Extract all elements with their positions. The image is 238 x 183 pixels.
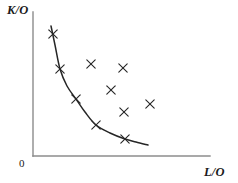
- data-point-marker: [121, 135, 129, 143]
- data-point-marker: [92, 121, 100, 129]
- isoquant-curve: [51, 26, 148, 145]
- data-markers: [49, 30, 154, 143]
- data-point-marker: [119, 64, 127, 72]
- y-axis-label: K/O: [7, 4, 28, 17]
- isoquant-figure: K/O L/O 0: [0, 0, 238, 183]
- data-point-marker: [120, 108, 128, 116]
- data-point-marker: [146, 100, 154, 108]
- data-point-marker: [72, 95, 80, 103]
- x-axis-label: L/O: [204, 166, 225, 179]
- axes: [33, 12, 210, 156]
- plot-canvas: [0, 0, 238, 183]
- data-point-marker: [87, 60, 95, 68]
- origin-label: 0: [19, 158, 25, 169]
- data-point-marker: [107, 86, 115, 94]
- data-point-marker: [56, 65, 64, 73]
- isoquant-path: [51, 26, 148, 145]
